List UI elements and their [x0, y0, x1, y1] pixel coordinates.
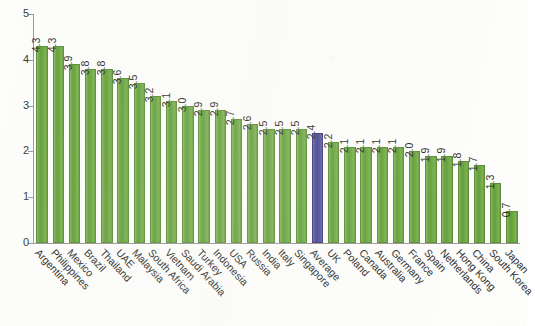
x-axis-label-slot: Turkey: [198, 245, 209, 325]
x-axis-label-slot: Spain: [425, 245, 436, 325]
x-axis-label-slot: Average: [312, 245, 323, 325]
bar-slot: 2.0: [409, 14, 420, 243]
bar-value-label: 2.5: [290, 120, 301, 135]
bar-slot: 2.9: [198, 14, 209, 243]
bar-value-label: 2.5: [274, 120, 285, 135]
plot-area: 012345 4.34.33.93.83.83.63.53.23.13.02.9…: [33, 14, 520, 243]
x-axis-label-slot: Japan: [506, 245, 517, 325]
y-axis-tick: 0: [33, 243, 34, 244]
bar: 1.9: [425, 156, 436, 243]
bar: 1.9: [441, 156, 452, 243]
x-axis-label: Japan: [503, 247, 531, 275]
y-axis-tick-label: 4: [23, 52, 29, 67]
x-axis-label-slot: Saudi Arabia: [182, 245, 193, 325]
bar-value-label: 3.8: [80, 61, 91, 76]
bar: 2.9: [198, 110, 209, 243]
y-axis-tick-label: 1: [23, 189, 29, 204]
bar-value-label: 3.2: [144, 88, 155, 103]
bar-slot: 2.9: [215, 14, 226, 243]
bar-value-label: 2.1: [355, 139, 366, 154]
bar-value-label: 3.8: [96, 61, 107, 76]
bar-slot: 1.9: [441, 14, 452, 243]
bar-value-label: 3.9: [63, 56, 74, 71]
x-axis-label-slot: Italy: [279, 245, 290, 325]
bar: 1.8: [458, 161, 469, 243]
bar: 2.0: [409, 151, 420, 243]
bar: 2.2: [328, 142, 339, 243]
y-axis-tick-label: 2: [23, 143, 29, 158]
bar-slot: 0.7: [506, 14, 517, 243]
bar: 2.1: [393, 147, 404, 243]
bar-value-label: 4.3: [47, 38, 58, 53]
x-axis-label-slot: USA: [231, 245, 242, 325]
bar-value-label: 2.1: [371, 139, 382, 154]
x-axis-label-slot: Malaysia: [134, 245, 145, 325]
x-axis-label: UK: [325, 247, 343, 265]
bar: 2.9: [215, 110, 226, 243]
x-axis-line: [33, 243, 520, 244]
bar-slot: 3.2: [150, 14, 161, 243]
x-axis-label-slot: South Africa: [150, 245, 161, 325]
bar-slot: 4.3: [53, 14, 64, 243]
bar-slot: 3.6: [117, 14, 128, 243]
bar: 2.5: [279, 129, 290, 244]
bar-slot: 2.2: [328, 14, 339, 243]
bar-value-label: 2.4: [306, 125, 317, 140]
bar-value-label: 0.7: [501, 203, 512, 218]
x-axis-label-slot: Indonesia: [215, 245, 226, 325]
bar-value-label: 1.8: [452, 152, 463, 167]
bar-value-label: 2.5: [258, 120, 269, 135]
bar-slot: 1.9: [425, 14, 436, 243]
bar-slot: 3.5: [134, 14, 145, 243]
bar: 2.1: [377, 147, 388, 243]
bar-value-label: 1.7: [468, 157, 479, 172]
bar-average: 2.4: [312, 133, 323, 243]
bar-value-label: 1.9: [436, 148, 447, 163]
bar-series: 4.34.33.93.83.83.63.53.23.13.02.92.92.72…: [34, 14, 520, 243]
bar-slot: 2.4: [312, 14, 323, 243]
bar-value-label: 3.5: [128, 74, 139, 89]
bar: 3.6: [117, 78, 128, 243]
bar-value-label: 2.0: [404, 143, 415, 158]
bar: 3.8: [101, 69, 112, 243]
x-axis-label-slot: Netherlands: [441, 245, 452, 325]
bar: 2.5: [263, 129, 274, 244]
bar-value-label: 1.3: [485, 175, 496, 190]
bar-value-label: 2.6: [242, 116, 253, 131]
bar-value-label: 2.9: [193, 102, 204, 117]
x-axis-label-slot: Hong Kong: [458, 245, 469, 325]
x-axis-label-slot: France: [409, 245, 420, 325]
x-axis-label-slot: UAE: [117, 245, 128, 325]
bar-slot: 2.1: [344, 14, 355, 243]
bar-slot: 3.9: [69, 14, 80, 243]
bar: 3.9: [69, 64, 80, 243]
bar: 2.6: [247, 124, 258, 243]
bar-slot: 3.8: [85, 14, 96, 243]
y-axis-tick-label: 5: [23, 6, 29, 21]
bar-slot: 3.0: [182, 14, 193, 243]
x-axis-label-slot: Vietnam: [166, 245, 177, 325]
bar-slot: 3.1: [166, 14, 177, 243]
x-axis-label-slot: Thailand: [101, 245, 112, 325]
bar-value-label: 2.1: [339, 139, 350, 154]
bar: 3.2: [150, 96, 161, 243]
bar: 2.5: [296, 129, 307, 244]
y-axis-tick-label: 0: [23, 235, 29, 250]
bar-value-label: 2.9: [209, 102, 220, 117]
x-axis-labels: ArgentinaPhilippinesMexicoBrazilThailand…: [34, 245, 520, 325]
bar-value-label: 1.9: [420, 148, 431, 163]
bar: 3.5: [134, 83, 145, 243]
bar-slot: 2.1: [377, 14, 388, 243]
bar-value-label: 3.6: [112, 70, 123, 85]
bar-value-label: 2.1: [387, 139, 398, 154]
bar-slot: 3.8: [101, 14, 112, 243]
bar: 2.7: [231, 119, 242, 243]
x-axis-label-slot: Philippines: [53, 245, 64, 325]
x-axis-label-slot: Russia: [247, 245, 258, 325]
bar: 0.7: [506, 211, 517, 243]
x-axis-label-slot: South Korea: [490, 245, 501, 325]
bar: 4.3: [53, 46, 64, 243]
x-axis-label-slot: UK: [328, 245, 339, 325]
bar-value-label: 3.0: [177, 97, 188, 112]
bar-slot: 1.7: [474, 14, 485, 243]
